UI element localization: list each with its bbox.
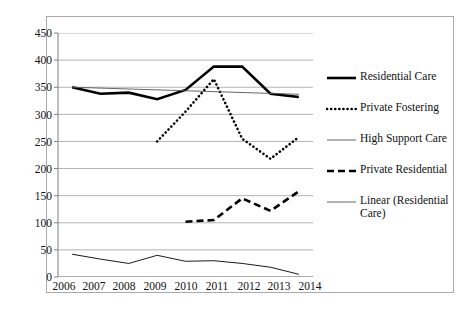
chart-legend: Residential CarePrivate FosteringHigh Su… bbox=[326, 70, 462, 236]
x-axis-tick-label: 2014 bbox=[290, 281, 330, 292]
series-layer bbox=[72, 67, 299, 275]
legend-swatch-dashed bbox=[326, 165, 357, 177]
legend-item-label: Residential Care bbox=[360, 70, 436, 83]
legend-swatch-solid-thin bbox=[326, 134, 357, 146]
legend-item[interactable]: Private Fostering bbox=[326, 101, 462, 115]
y-axis-tick-label: 350 bbox=[18, 82, 52, 92]
chart-container: 450 400 350 300 250 200 150 100 50 0 200… bbox=[0, 0, 467, 312]
legend-swatch-trendline bbox=[326, 196, 357, 208]
legend-item-label: High Support Care bbox=[360, 132, 447, 145]
y-axis-tick-label: 200 bbox=[18, 164, 52, 174]
series-line-high-support-care bbox=[72, 254, 299, 274]
gridlines bbox=[58, 33, 313, 277]
series-line-residential-care bbox=[72, 67, 299, 100]
legend-item-label: Linear (Residential Care) bbox=[360, 194, 462, 219]
y-axis-tick-label: 100 bbox=[18, 218, 52, 228]
legend-item[interactable]: Linear (Residential Care) bbox=[326, 194, 462, 219]
y-axis-tick-label: 250 bbox=[18, 137, 52, 147]
legend-item-label: Private Fostering bbox=[360, 101, 439, 114]
y-axis-tick-label: 400 bbox=[18, 55, 52, 65]
legend-item-label: Private Residential bbox=[360, 163, 447, 176]
y-axis-ticks bbox=[50, 28, 62, 284]
plot-area bbox=[58, 33, 313, 277]
plot-svg bbox=[58, 33, 313, 277]
y-axis-tick-label: 300 bbox=[18, 110, 52, 120]
legend-item[interactable]: Residential Care bbox=[326, 70, 462, 84]
y-axis-tick-label: 450 bbox=[18, 28, 52, 38]
legend-swatch-dotted bbox=[326, 103, 357, 115]
legend-item[interactable]: High Support Care bbox=[326, 132, 462, 146]
y-axis-tick-label: 50 bbox=[18, 245, 52, 255]
legend-item[interactable]: Private Residential bbox=[326, 163, 462, 177]
legend-swatch-solid-thick bbox=[326, 72, 357, 84]
y-axis-tick-label: 150 bbox=[18, 191, 52, 201]
